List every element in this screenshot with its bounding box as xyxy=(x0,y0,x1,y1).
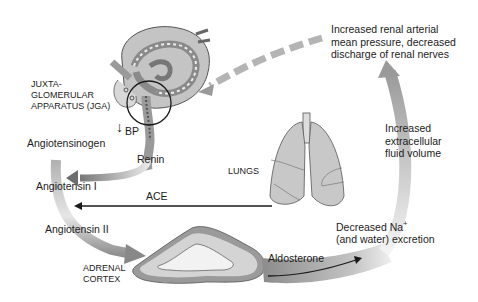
ecf-line-1: Increased xyxy=(385,122,442,135)
decreased-na-line-1: Decreased Na+ xyxy=(336,218,435,233)
bp-label: BP xyxy=(125,125,139,138)
increased-ecf-label: Increased extracellular fluid volume xyxy=(385,122,442,160)
kidney-nephron-illustration xyxy=(112,27,210,170)
angiotensin-1-label: Angiotensin I xyxy=(36,180,97,193)
adrenal-line-2: CORTEX xyxy=(83,274,126,285)
decreased-na-text: Decreased Na xyxy=(336,221,403,233)
pressure-line-2: mean pressure, decreased xyxy=(331,36,456,49)
ecf-line-3: fluid volume xyxy=(385,147,442,160)
pressure-line-1: Increased renal arterial xyxy=(331,23,456,36)
jga-line-3: APPARATUS (JGA) xyxy=(31,101,110,112)
ecf-line-2: extracellular xyxy=(385,135,442,148)
bp-down-arrow-icon: ↓ xyxy=(116,121,123,134)
aldosterone-label: Aldosterone xyxy=(268,252,324,265)
lungs-label: LUNGS xyxy=(228,166,259,177)
decreased-na-line-2: (and water) excretion xyxy=(336,233,435,246)
angiotensinogen-label: Angiotensinogen xyxy=(27,137,105,150)
na-superscript: + xyxy=(403,220,407,227)
renin-label: Renin xyxy=(137,153,164,166)
adrenal-cortex-label: ADRENAL CORTEX xyxy=(83,263,126,285)
angiotensin-2-label: Angiotensin II xyxy=(45,223,109,236)
pressure-line-3: discharge of renal nerves xyxy=(331,48,456,61)
increased-pressure-label: Increased renal arterial mean pressure, … xyxy=(331,23,456,61)
adrenal-line-1: ADRENAL xyxy=(83,263,126,274)
feedback-dashed-arrow xyxy=(210,38,322,86)
jga-label: JUXTA- GLOMERULAR APPARATUS (JGA) xyxy=(31,79,110,112)
lungs-illustration xyxy=(270,113,344,206)
adrenal-cortex-illustration xyxy=(133,227,265,284)
ace-label: ACE xyxy=(146,190,168,203)
jga-line-1: JUXTA- xyxy=(31,79,110,90)
jga-line-2: GLOMERULAR xyxy=(31,90,110,101)
decreased-na-label: Decreased Na+ (and water) excretion xyxy=(336,218,435,246)
